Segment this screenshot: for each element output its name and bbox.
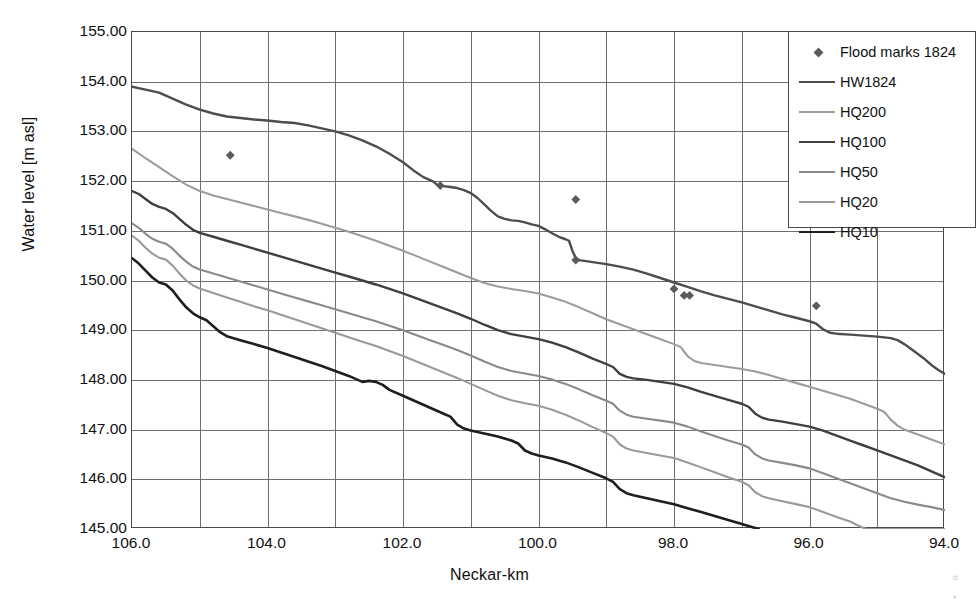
legend-item-hq10[interactable]: HQ10 xyxy=(789,217,975,247)
line-swatch-icon xyxy=(799,111,835,113)
legend-label: HQ10 xyxy=(836,224,878,240)
flood-mark-point xyxy=(670,285,679,294)
legend-key-line xyxy=(798,75,836,89)
legend-label: HQ50 xyxy=(836,164,878,180)
series-line-hq10 xyxy=(132,258,759,529)
legend-label: Flood marks 1824 xyxy=(836,44,956,60)
line-swatch-icon xyxy=(799,81,835,83)
legend-item-hq20[interactable]: HQ20 xyxy=(789,187,975,217)
legend-item-flood-marks-1824[interactable]: Flood marks 1824 xyxy=(789,37,975,67)
flood-mark-point xyxy=(436,181,445,190)
line-swatch-icon xyxy=(799,171,835,173)
y-tick-155.00: 155.00 xyxy=(0,22,127,40)
flood-mark-point xyxy=(571,256,580,265)
chart-legend: Flood marks 1824HW1824HQ200HQ100HQ50HQ20… xyxy=(788,31,976,228)
flood-mark-point xyxy=(226,151,235,160)
diamond-marker-icon xyxy=(813,47,823,57)
legend-label: HQ20 xyxy=(836,194,878,210)
legend-item-hq50[interactable]: HQ50 xyxy=(789,157,975,187)
x-tick-96.0: 96.0 xyxy=(793,534,823,552)
x-tick-100.0: 100.0 xyxy=(518,534,557,552)
legend-key-marker xyxy=(798,45,836,59)
flood-mark-point xyxy=(685,291,694,300)
scan-artifact-2: › xyxy=(953,592,956,602)
line-swatch-icon xyxy=(799,201,835,203)
x-tick-98.0: 98.0 xyxy=(658,534,688,552)
scan-artifact-1: ☼ xyxy=(951,572,959,582)
x-tick-104.0: 104.0 xyxy=(247,534,286,552)
legend-key-line xyxy=(798,105,836,119)
legend-key-line xyxy=(798,165,836,179)
y-tick-150.00: 150.00 xyxy=(0,271,127,289)
series-line-hq50 xyxy=(132,223,945,510)
legend-label: HW1824 xyxy=(836,74,896,90)
y-tick-146.00: 146.00 xyxy=(0,469,127,487)
water-level-profile-chart: Water level [m asl] Neckar-km 155.00154.… xyxy=(0,0,979,614)
x-axis-title: Neckar-km xyxy=(0,566,979,584)
line-swatch-icon xyxy=(799,141,835,143)
series-line-hq20 xyxy=(132,236,945,529)
y-tick-149.00: 149.00 xyxy=(0,320,127,338)
x-tick-94.0: 94.0 xyxy=(929,534,959,552)
legend-label: HQ200 xyxy=(836,104,886,120)
legend-key-line xyxy=(798,135,836,149)
y-tick-154.00: 154.00 xyxy=(0,72,127,90)
line-swatch-icon xyxy=(799,231,835,233)
y-tick-148.00: 148.00 xyxy=(0,370,127,388)
legend-key-line xyxy=(798,225,836,239)
flood-mark-point xyxy=(812,301,821,310)
legend-label: HQ100 xyxy=(836,134,886,150)
y-tick-145.00: 145.00 xyxy=(0,519,127,537)
legend-key-line xyxy=(798,195,836,209)
legend-item-hw1824[interactable]: HW1824 xyxy=(789,67,975,97)
legend-item-hq200[interactable]: HQ200 xyxy=(789,97,975,127)
y-tick-147.00: 147.00 xyxy=(0,420,127,438)
flood-mark-point xyxy=(571,195,580,204)
x-tick-102.0: 102.0 xyxy=(383,534,422,552)
x-tick-106.0: 106.0 xyxy=(112,534,151,552)
legend-item-hq100[interactable]: HQ100 xyxy=(789,127,975,157)
y-tick-151.00: 151.00 xyxy=(0,221,127,239)
y-tick-152.00: 152.00 xyxy=(0,171,127,189)
y-tick-153.00: 153.00 xyxy=(0,121,127,139)
